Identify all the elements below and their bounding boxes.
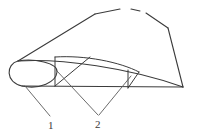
upper-ridge-broken-segment [131, 9, 140, 11]
body-outline-group [9, 9, 183, 87]
chord-baseline [22, 86, 183, 87]
callout-label-1: 1 [48, 120, 54, 131]
technical-drawing-figure: 1 2 [0, 0, 201, 138]
leader-line-callout-2-left [57, 71, 98, 115]
inner-upper-arc [55, 57, 139, 72]
internal-construction-lines-group [55, 57, 139, 88]
diagonal-brace-right [128, 72, 139, 88]
body-lower-curve [18, 60, 183, 87]
upper-ridge-crest-edge [95, 9, 120, 14]
leader-line-callout-1 [25, 86, 50, 116]
callout-leader-lines-group [25, 71, 131, 116]
upper-ridge-right-edge [146, 13, 168, 28]
upper-ridge-left-edge [18, 14, 95, 61]
nose-ellipse-section [9, 60, 57, 87]
trailing-right-edge [168, 28, 183, 87]
callout-label-2: 2 [95, 119, 101, 130]
leader-line-callout-2-right [99, 76, 131, 115]
line-drawing-canvas [0, 0, 201, 138]
